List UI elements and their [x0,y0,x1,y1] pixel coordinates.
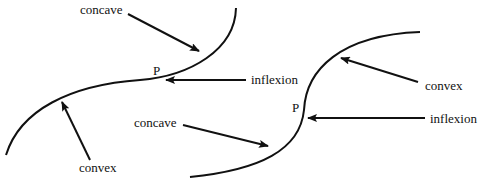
label-right-inflexion: inflexion [430,112,477,125]
arrow-right-convex [341,58,418,82]
label-left-convex: convex [79,161,117,174]
left-s-curve [6,8,236,155]
diagram-canvas [0,0,479,179]
label-right-point: P [292,101,299,114]
arrow-left-concave [128,14,199,51]
label-right-concave: concave [134,116,177,129]
arrow-left-convex [62,102,90,160]
label-left-concave: concave [80,3,123,16]
label-left-inflexion: inflexion [251,73,298,86]
label-right-convex: convex [425,79,463,92]
arrow-right-concave [183,125,268,146]
label-left-point: P [153,64,160,77]
right-s-curve [190,32,420,177]
